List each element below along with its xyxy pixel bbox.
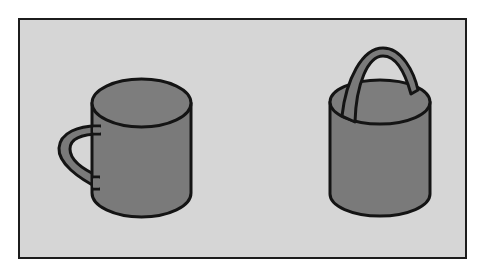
mug-top <box>92 79 191 127</box>
mug-illustration <box>59 79 191 217</box>
bucket-illustration <box>330 48 430 216</box>
illustration <box>0 0 487 280</box>
figure: mug bucket <box>0 0 487 280</box>
